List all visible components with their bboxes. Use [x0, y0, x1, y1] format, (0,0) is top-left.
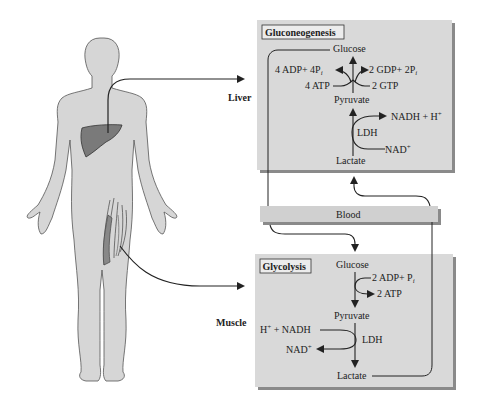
body-silhouette	[27, 38, 177, 381]
gng-lactate: Lactate	[336, 155, 366, 166]
blood-to-lactate-arrow	[354, 178, 430, 206]
gly-pyruvate: Pyruvate	[334, 310, 370, 321]
liver-label: Liver	[228, 92, 252, 103]
glycolysis-title: Glycolysis	[263, 261, 306, 272]
gluconeogenesis-box: Gluconeogenesis Glucose 4 ADP+ 4Pi 2 GDP…	[257, 20, 455, 173]
gng-glucose: Glucose	[333, 43, 366, 54]
gly-atp: 2 ATP	[377, 288, 402, 299]
gly-ldh: LDH	[362, 334, 383, 345]
gng-ldh: LDH	[357, 127, 378, 138]
muscle-arrow	[120, 246, 243, 286]
gluconeogenesis-title: Gluconeogenesis	[265, 27, 336, 38]
gly-lactate: Lactate	[337, 370, 367, 381]
gly-glucose: Glucose	[336, 259, 369, 270]
glycolysis-box: Glycolysis Glucose 2 ADP+ Pi 2 ATP Pyruv…	[255, 254, 456, 390]
gng-nadh: NADH + H+	[391, 110, 442, 122]
gng-gtp: 2 GTP	[372, 80, 399, 91]
muscle-label: Muscle	[216, 317, 247, 328]
blood-bar: Blood	[260, 206, 441, 225]
blood-to-glucose-arrow	[270, 225, 355, 250]
gng-pyruvate: Pyruvate	[334, 94, 370, 105]
human-figure	[27, 38, 177, 381]
gng-atp: 4 ATP	[305, 80, 330, 91]
cori-cycle-diagram: Liver Muscle Gluconeogenesis Glucose 4 A…	[0, 0, 483, 416]
blood-label: Blood	[336, 209, 360, 220]
